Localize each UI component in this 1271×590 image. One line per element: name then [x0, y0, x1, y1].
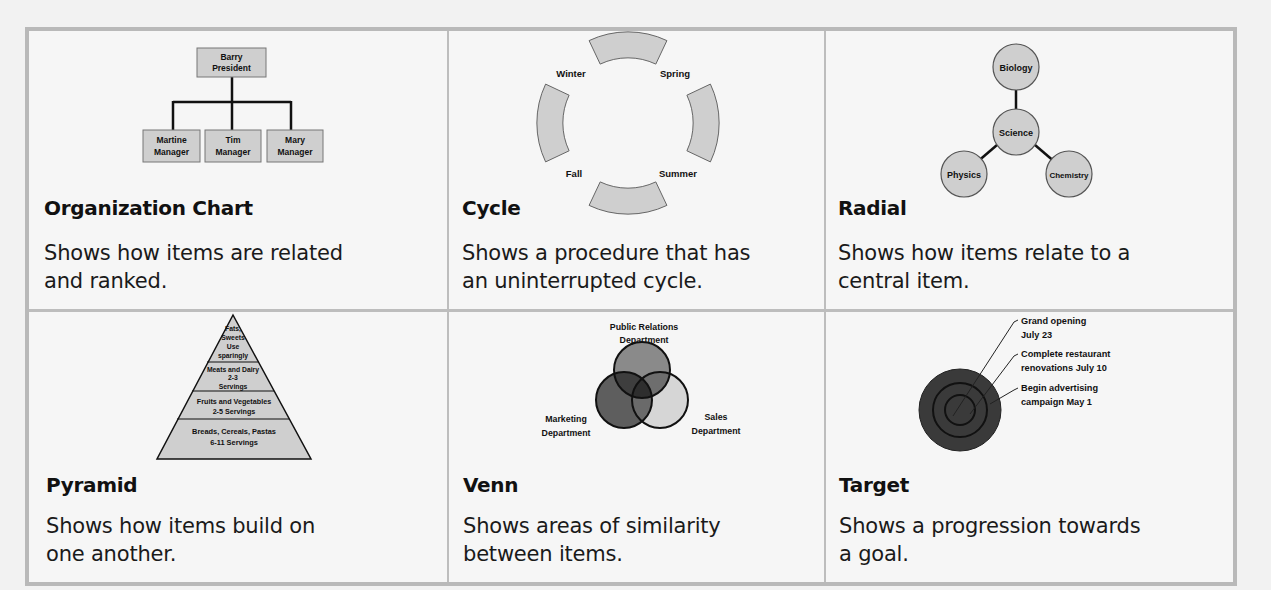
target-callout: Complete restaurant — [1021, 349, 1110, 359]
svg-text:6-11 Servings: 6-11 Servings — [210, 438, 258, 447]
svg-text:Physics: Physics — [947, 170, 981, 180]
svg-text:Chemistry: Chemistry — [1049, 171, 1089, 180]
org-node-top: Barry President — [197, 48, 266, 77]
cell-description: Shows how items are related and ranked. — [44, 239, 343, 295]
venn-label: Department — [542, 428, 591, 438]
cycle-label: Spring — [660, 68, 690, 79]
venn-label: Department — [692, 426, 741, 436]
svg-text:2-5 Servings: 2-5 Servings — [213, 407, 256, 416]
cell-description: Shows a procedure that has an uninterrup… — [462, 239, 750, 295]
svg-text:Meats and Dairy: Meats and Dairy — [207, 366, 259, 374]
svg-text:Mary: Mary — [285, 135, 305, 145]
svg-text:Biology: Biology — [1000, 63, 1033, 73]
cell-organization-chart: Barry President Martine Manager Tim Mana… — [29, 31, 447, 309]
cell-target: Grand opening July 23 Complete restauran… — [826, 312, 1229, 578]
svg-text:sparingly: sparingly — [218, 352, 248, 360]
cycle-label: Fall — [566, 168, 582, 179]
target-callout: renovations July 10 — [1021, 363, 1107, 373]
svg-text:Sweets: Sweets — [221, 334, 245, 341]
radial-node: Chemistry — [1046, 151, 1092, 197]
org-chart-diagram: Barry President Martine Manager Tim Mana… — [29, 31, 447, 181]
svg-text:Servings: Servings — [219, 383, 248, 391]
svg-text:Breads, Cereals, Pastas: Breads, Cereals, Pastas — [192, 427, 276, 436]
org-node-child: Tim Manager — [205, 130, 261, 162]
cell-title: Cycle — [462, 196, 521, 220]
venn-label: Sales — [705, 412, 728, 422]
cell-title: Radial — [838, 196, 907, 220]
cell-radial: Biology Science Physics Chemistry Radial… — [826, 31, 1229, 309]
cycle-label: Winter — [556, 68, 586, 79]
svg-text:Use: Use — [227, 343, 240, 350]
svg-text:Manager: Manager — [216, 147, 252, 157]
svg-text:Tim: Tim — [226, 135, 241, 145]
svg-text:Fruits and Vegetables: Fruits and Vegetables — [197, 397, 271, 406]
radial-node: Physics — [941, 151, 987, 197]
svg-text:Fats,: Fats, — [225, 325, 241, 333]
cell-title: Target — [839, 473, 909, 497]
target-callout: campaign May 1 — [1021, 397, 1092, 407]
cell-description: Shows a progression towards a goal. — [839, 512, 1140, 568]
svg-text:2-3: 2-3 — [228, 374, 238, 381]
cell-description: Shows how items build on one another. — [46, 512, 315, 568]
cell-description: Shows areas of similarity between items. — [463, 512, 721, 568]
org-node-child: Mary Manager — [267, 130, 323, 162]
cell-description: Shows how items relate to a central item… — [838, 239, 1130, 295]
target-callout: Grand opening — [1021, 316, 1086, 326]
svg-text:Martine: Martine — [156, 135, 187, 145]
svg-text:Manager: Manager — [154, 147, 190, 157]
venn-label: Public Relations — [610, 322, 679, 332]
radial-diagram: Biology Science Physics Chemistry — [826, 31, 1229, 221]
cell-pyramid: Fats, Sweets Use sparingly Meats and Dai… — [29, 312, 447, 578]
svg-text:Science: Science — [999, 128, 1033, 138]
org-node-child: Martine Manager — [143, 130, 200, 162]
cell-title: Pyramid — [46, 473, 137, 497]
cycle-diagram: Winter Spring Summer Fall — [449, 31, 824, 221]
svg-text:Manager: Manager — [278, 147, 314, 157]
cell-title: Organization Chart — [44, 196, 253, 220]
cell-title: Venn — [463, 473, 518, 497]
cycle-label: Summer — [659, 168, 697, 179]
cell-venn: Public Relations Department Marketing De… — [449, 312, 824, 578]
radial-node: Biology — [993, 44, 1039, 90]
venn-diagram: Public Relations Department Marketing De… — [449, 312, 824, 482]
venn-label: Department — [620, 335, 669, 345]
target-diagram: Grand opening July 23 Complete restauran… — [826, 312, 1229, 482]
venn-label: Marketing — [545, 414, 587, 424]
radial-center-node: Science — [993, 109, 1039, 155]
target-callout: Begin advertising — [1021, 383, 1098, 393]
svg-text:President: President — [212, 63, 251, 73]
pyramid-diagram: Fats, Sweets Use sparingly Meats and Dai… — [29, 312, 447, 482]
svg-text:Barry: Barry — [220, 52, 242, 62]
cell-cycle: Winter Spring Summer Fall Cycle Shows a … — [449, 31, 824, 309]
target-callout: July 23 — [1021, 330, 1052, 340]
